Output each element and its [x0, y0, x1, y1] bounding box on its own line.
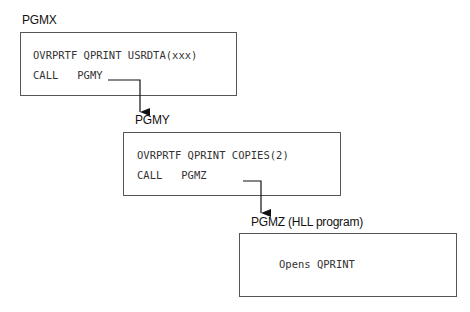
call-arrows: [0, 0, 470, 312]
arrow-pgmx-to-pgmy: [108, 80, 140, 112]
arrow-pgmy-to-pgmz: [243, 181, 261, 213]
